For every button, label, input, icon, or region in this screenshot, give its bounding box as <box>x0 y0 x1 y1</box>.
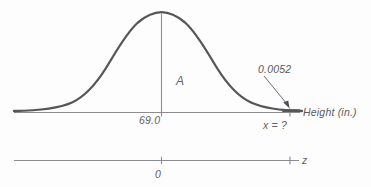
mean-value-label: 69.0 <box>139 114 160 126</box>
annotation-leader-line <box>264 76 287 104</box>
area-label: A <box>176 74 184 88</box>
tail-probability-label: 0.0052 <box>258 63 291 75</box>
normal-curve-figure: 69.0 A 0.0052 x = ? Height (in.) z 0 <box>0 0 371 187</box>
x-axis-title: Height (in.) <box>303 106 357 118</box>
z-zero-label: 0 <box>155 168 161 180</box>
distribution-diagram-svg <box>0 0 371 187</box>
z-axis-title: z <box>302 154 307 166</box>
annotation-arrowhead-icon <box>283 101 289 109</box>
x-unknown-label: x = ? <box>263 119 287 131</box>
normal-curve-path <box>14 12 302 111</box>
